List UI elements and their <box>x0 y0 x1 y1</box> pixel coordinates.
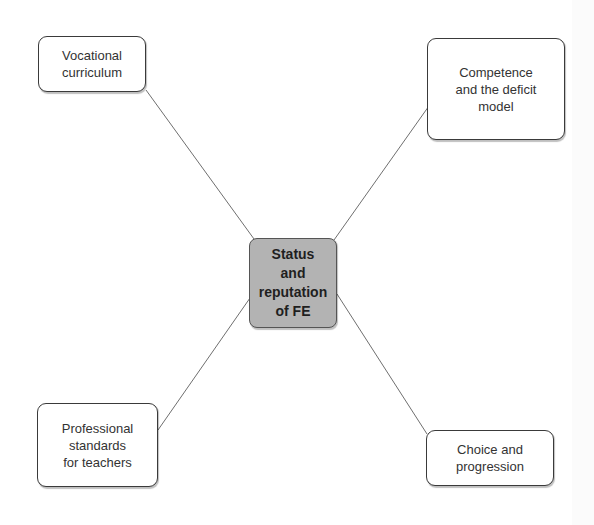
central-label: Status and reputation of FE <box>259 245 327 321</box>
connector-competence <box>334 96 436 240</box>
connector-professional <box>158 298 250 430</box>
connector-choice <box>337 294 427 434</box>
node-professional-standards: Professional standards for teachers <box>37 403 158 487</box>
node-label: Vocational curriculum <box>62 47 122 81</box>
connector-vocational <box>146 90 254 239</box>
node-competence-deficit-model: Competence and the deficit model <box>427 38 565 140</box>
node-central-status-reputation: Status and reputation of FE <box>249 238 337 328</box>
node-label: Professional standards for teachers <box>62 420 134 471</box>
node-label: Choice and progression <box>456 441 524 475</box>
node-vocational-curriculum: Vocational curriculum <box>38 36 146 92</box>
node-choice-progression: Choice and progression <box>426 430 554 486</box>
node-label: Competence and the deficit model <box>456 64 537 115</box>
